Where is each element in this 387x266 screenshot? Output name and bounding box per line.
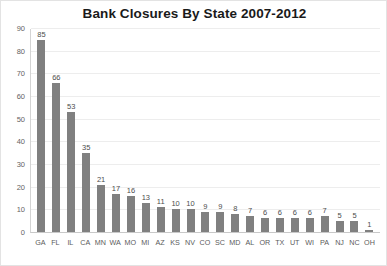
bar-item: 13 — [138, 29, 153, 232]
bar-value-label: 11 — [157, 198, 165, 206]
y-axis-tick-label: 60 — [17, 93, 25, 101]
y-axis-tick-label: 20 — [17, 184, 25, 192]
x-axis-tick-label: PA — [317, 235, 332, 251]
x-axis-tick-label: FL — [48, 235, 63, 251]
bar-value-label: 9 — [218, 203, 222, 211]
bar-item: 66 — [49, 29, 64, 232]
x-axis-tick-label: AL — [242, 235, 257, 251]
bar-value-label: 9 — [203, 203, 207, 211]
y-axis-tick-label: 10 — [17, 207, 25, 215]
bar-value-label: 35 — [82, 144, 90, 152]
bar-rect — [276, 218, 284, 232]
bar-item: 17 — [109, 29, 124, 232]
chart-title: Bank Closures By State 2007-2012 — [1, 6, 387, 21]
bar-item: 10 — [183, 29, 198, 232]
bar-item: 85 — [34, 29, 49, 232]
y-axis-tick-label: 30 — [17, 161, 25, 169]
bar-value-label: 5 — [337, 212, 341, 220]
bar-item: 6 — [287, 29, 302, 232]
bar-rect — [67, 112, 75, 232]
bar-item: 6 — [302, 29, 317, 232]
bar-rect — [187, 209, 195, 232]
y-axis: 0102030405060708090 — [1, 29, 29, 233]
x-axis: GAFLILCAMNWAMOMIAZKSNVCOSCMDALORTXUTWIPA… — [30, 235, 380, 251]
x-axis-tick-label: NC — [347, 235, 362, 251]
bar-value-label: 1 — [367, 221, 371, 229]
bar-item: 9 — [213, 29, 228, 232]
x-axis-tick-label: MO — [123, 235, 138, 251]
bar-item: 16 — [123, 29, 138, 232]
bar-item: 6 — [273, 29, 288, 232]
bar-item: 11 — [153, 29, 168, 232]
bar-value-label: 8 — [233, 205, 237, 213]
bar-rect — [127, 196, 135, 232]
bar-rect — [201, 212, 209, 232]
bar-value-label: 53 — [67, 103, 75, 111]
bar-item: 35 — [79, 29, 94, 232]
bar-rect — [82, 153, 90, 232]
bar-item: 7 — [317, 29, 332, 232]
bar-rect — [321, 216, 329, 232]
x-axis-tick-label: MD — [227, 235, 242, 251]
x-axis-tick-label: TX — [272, 235, 287, 251]
bar-item: 7 — [243, 29, 258, 232]
bar-value-label: 6 — [278, 209, 282, 217]
y-axis-tick-label: 70 — [17, 71, 25, 79]
x-axis-tick-label: MI — [138, 235, 153, 251]
bar-rect — [350, 221, 358, 232]
x-axis-tick-label: WI — [302, 235, 317, 251]
y-axis-tick-label: 80 — [17, 48, 25, 56]
bar-value-label: 16 — [127, 187, 135, 195]
bar-value-label: 7 — [248, 207, 252, 215]
bar-rect — [142, 203, 150, 232]
bar-item: 53 — [64, 29, 79, 232]
bar-rect — [97, 185, 105, 232]
y-axis-tick-label: 50 — [17, 116, 25, 124]
x-axis-tick-label: WA — [108, 235, 123, 251]
bar-rect — [231, 214, 239, 232]
bar-rect — [112, 194, 120, 232]
y-axis-tick-label: 90 — [17, 25, 25, 33]
bar-value-label: 5 — [352, 212, 356, 220]
bar-value-label: 66 — [52, 74, 60, 82]
bar-value-label: 6 — [263, 209, 267, 217]
bar-rect — [306, 218, 314, 232]
bar-item: 21 — [94, 29, 109, 232]
x-axis-tick-label: UT — [287, 235, 302, 251]
bar-value-label: 10 — [171, 200, 179, 208]
bar-value-label: 6 — [293, 209, 297, 217]
bar-rect — [216, 212, 224, 232]
bank-closures-bar-chart: Bank Closures By State 2007-2012 0102030… — [0, 0, 387, 266]
x-axis-tick-label: CA — [78, 235, 93, 251]
bar-value-label: 7 — [323, 207, 327, 215]
bar-value-label: 6 — [308, 209, 312, 217]
x-axis-tick-label: GA — [33, 235, 48, 251]
plot-wrapper: 0102030405060708090 85665335211716131110… — [1, 29, 387, 266]
x-axis-tick-label: SC — [212, 235, 227, 251]
bar-rect — [37, 40, 45, 232]
x-axis-tick-label: KS — [168, 235, 183, 251]
x-axis-tick-label: AZ — [153, 235, 168, 251]
x-axis-tick-label: OH — [362, 235, 377, 251]
bar-rect — [261, 218, 269, 232]
bar-rect — [336, 221, 344, 232]
bar-value-label: 10 — [186, 200, 194, 208]
bar-rect — [52, 83, 60, 232]
x-axis-tick-label: OR — [257, 235, 272, 251]
bar-value-label: 17 — [112, 185, 120, 193]
bar-item: 5 — [347, 29, 362, 232]
x-axis-tick-label: IL — [63, 235, 78, 251]
bar-item: 1 — [362, 29, 377, 232]
x-axis-tick-label: NJ — [332, 235, 347, 251]
bar-series: 8566533521171613111010998766667551 — [31, 29, 380, 232]
bar-value-label: 85 — [37, 31, 45, 39]
x-axis-tick-label: MN — [93, 235, 108, 251]
x-axis-tick-label: NV — [183, 235, 198, 251]
bar-item: 5 — [332, 29, 347, 232]
bar-rect — [291, 218, 299, 232]
bar-item: 8 — [228, 29, 243, 232]
bar-item: 10 — [168, 29, 183, 232]
bar-rect — [246, 216, 254, 232]
bar-rect — [157, 207, 165, 232]
bar-value-label: 13 — [142, 194, 150, 202]
